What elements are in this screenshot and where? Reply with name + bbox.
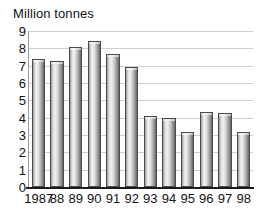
- bar-90: [88, 41, 101, 187]
- bar-96: [200, 112, 213, 187]
- x-axis-line: [26, 187, 254, 189]
- bar-cap: [107, 55, 118, 57]
- gridline-8: [29, 48, 253, 49]
- bar-92: [125, 67, 138, 187]
- y-tick-label-6: 6: [2, 77, 26, 90]
- bar-cap: [89, 42, 100, 44]
- bar-cap: [70, 48, 81, 50]
- bar-91: [106, 54, 119, 187]
- y-tick-label-3: 3: [2, 129, 26, 142]
- bar-95: [181, 132, 194, 187]
- bar-cap: [145, 117, 156, 119]
- bar-cap: [238, 133, 249, 135]
- y-tick-label-2: 2: [2, 146, 26, 159]
- bar-cap: [33, 60, 44, 62]
- y-tick-label-8: 8: [2, 42, 26, 55]
- bar-98: [237, 132, 250, 187]
- bar-94: [162, 118, 175, 187]
- y-tick-label-7: 7: [2, 60, 26, 73]
- bar-89: [69, 47, 82, 187]
- bar-cap: [219, 114, 230, 116]
- y-tick-label-5: 5: [2, 94, 26, 107]
- bar-cap: [182, 133, 193, 135]
- plot-area: [29, 31, 253, 187]
- x-tick-label-98: 98: [230, 191, 258, 206]
- gridline-9: [29, 31, 253, 32]
- bar-1987: [32, 59, 45, 187]
- bar-88: [50, 61, 63, 187]
- bar-93: [144, 116, 157, 187]
- y-tick-label-1: 1: [2, 164, 26, 177]
- bar-cap: [201, 113, 212, 115]
- bar-cap: [51, 62, 62, 64]
- bar-cap: [163, 119, 174, 121]
- y-axis-tick-labels: 9876543210: [0, 0, 26, 222]
- bar-cap: [126, 68, 137, 70]
- y-tick-label-9: 9: [2, 25, 26, 38]
- x-axis-tick-labels: 19878889909192939495969798: [29, 191, 253, 211]
- y-tick-label-4: 4: [2, 112, 26, 125]
- bar-chart: Million tonnes 9876543210 19878889909192…: [0, 0, 261, 222]
- bar-97: [218, 113, 231, 187]
- y-tick-label-0: 0: [2, 181, 26, 194]
